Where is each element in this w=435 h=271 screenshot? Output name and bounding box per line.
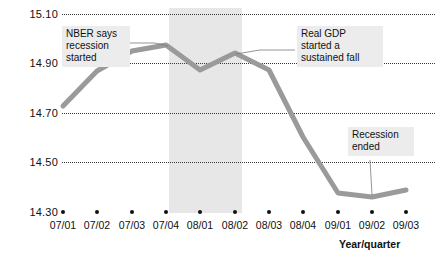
xtick-dot-08-01 [198, 210, 202, 214]
xtick-dot-07-04 [164, 210, 168, 214]
annotation-recession-ended: Recession ended [348, 127, 414, 156]
xtick-dot-09-03 [404, 210, 408, 214]
xtick-dot-09-02 [370, 210, 374, 214]
xtick-dot-08-02 [233, 210, 237, 214]
recession-shaded-band [169, 8, 242, 213]
xtick-dot-08-03 [267, 210, 271, 214]
gridline-14-70 [62, 113, 435, 114]
leader-line-gdp [236, 50, 295, 54]
annotation-real-gdp-sustained-fall: Real GDP started a sustained fall [297, 26, 383, 67]
xtick-dot-08-04 [301, 210, 305, 214]
leader-line-recession-ended [370, 160, 372, 195]
gridline-15-10 [62, 14, 435, 15]
gdp-recession-line-chart: 15.10 14.90 14.70 14.50 14.30 07/01 07/0… [0, 0, 435, 271]
x-axis-title: Year/quarter [339, 238, 400, 250]
ytick-label-14-30: 14.30 [8, 206, 58, 218]
xtick-dot-07-02 [95, 210, 99, 214]
gridline-14-50 [62, 162, 435, 163]
ytick-label-14-90: 14.90 [8, 57, 58, 69]
annotation-nber-recession-started: NBER says recession started [62, 26, 130, 67]
xtick-dot-07-03 [130, 210, 134, 214]
xtick-label-09-03: 09/03 [386, 219, 426, 231]
ytick-label-15-10: 15.10 [8, 8, 58, 20]
ytick-label-14-50: 14.50 [8, 156, 58, 168]
xtick-label-08-01: 08/01 [180, 219, 220, 231]
leader-line-nber [124, 43, 168, 46]
ytick-label-14-70: 14.70 [8, 107, 58, 119]
xtick-dot-07-01 [61, 210, 65, 214]
plot-area: 15.10 14.90 14.70 14.50 14.30 07/01 07/0… [0, 0, 435, 271]
xtick-label-08-04: 08/04 [283, 219, 323, 231]
xtick-label-07-02: 07/02 [77, 219, 117, 231]
xtick-dot-09-01 [336, 210, 340, 214]
